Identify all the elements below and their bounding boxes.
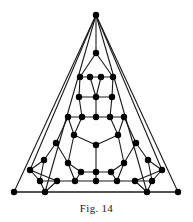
graph-vertex: [121, 160, 127, 166]
graph-vertex: [93, 50, 99, 56]
graph-edge: [80, 53, 96, 77]
graph-vertex: [27, 167, 33, 173]
graph-edge: [14, 15, 96, 192]
graph-vertex: [78, 169, 84, 175]
graph-edge: [30, 170, 57, 181]
graph-vertex: [159, 167, 165, 173]
graph-edge: [135, 170, 162, 181]
graph-edge: [45, 15, 96, 192]
graph-vertex: [145, 157, 151, 163]
graph-vertex: [76, 94, 82, 100]
graph-vertex: [132, 178, 138, 184]
graph-vertex: [121, 114, 127, 120]
graph-vertex: [87, 74, 93, 80]
graph-vertex: [11, 189, 17, 195]
graph-vertex: [93, 12, 99, 18]
graph-edge: [96, 15, 147, 192]
graph-vertex: [144, 189, 150, 195]
graph-vertex: [93, 169, 99, 175]
graph-vertex: [53, 140, 59, 146]
graph-vertex: [98, 74, 104, 80]
graph-vertex: [93, 178, 99, 184]
graph-vertex: [93, 94, 99, 100]
graph-vertex: [133, 140, 139, 146]
graph-edge: [124, 117, 136, 143]
graph-vertex: [115, 132, 121, 138]
graph-vertex: [37, 178, 43, 184]
graph-vertex: [65, 114, 71, 120]
graph-vertex: [54, 178, 60, 184]
graph-vertex: [93, 142, 99, 148]
graph-vertex: [72, 178, 78, 184]
graph-edge: [96, 135, 118, 145]
graph-vertex: [77, 74, 83, 80]
graph-edge: [96, 15, 162, 170]
graph-vertex: [79, 114, 85, 120]
graph-edge: [148, 160, 152, 181]
graph-vertex: [42, 189, 48, 195]
graph-edge: [68, 135, 74, 163]
graph-vertex: [110, 74, 116, 80]
graph-edge: [74, 135, 96, 145]
graph-vertex: [107, 114, 113, 120]
graph-vertex: [109, 94, 115, 100]
graph-vertex: [65, 160, 71, 166]
figure-container: Fig. 14: [0, 0, 193, 222]
graph-vertex: [93, 114, 99, 120]
figure-caption: Fig. 14: [0, 201, 193, 215]
graph-edge: [30, 15, 96, 170]
graph-edge: [40, 160, 44, 181]
graph-vertex: [149, 178, 155, 184]
graph-edge: [118, 135, 124, 163]
graph-edge: [56, 117, 68, 143]
graph-vertex: [175, 189, 181, 195]
edge-layer: [14, 15, 178, 192]
graph-diagram: [0, 0, 193, 200]
graph-edge: [96, 15, 178, 192]
graph-vertex: [114, 178, 120, 184]
graph-vertex: [108, 169, 114, 175]
graph-vertex: [41, 157, 47, 163]
graph-vertex: [71, 132, 77, 138]
